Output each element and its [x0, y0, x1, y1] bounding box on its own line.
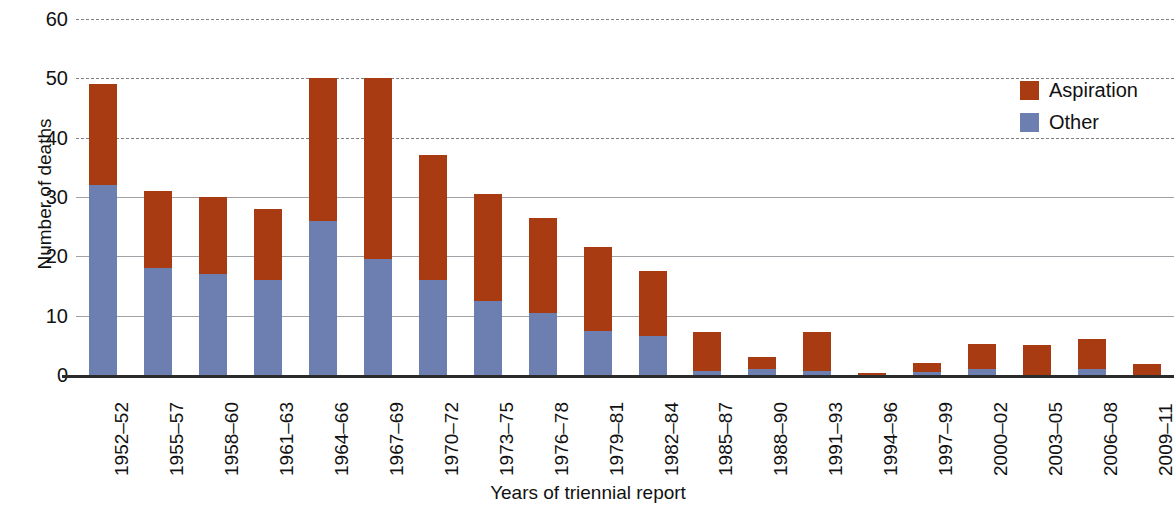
bar-stack[interactable] — [584, 247, 612, 375]
x-tick-label: 1985–87 — [716, 380, 735, 476]
x-tick-label: 1955–57 — [167, 380, 186, 476]
bar-slot[interactable] — [735, 19, 790, 375]
bar-segment-aspiration[interactable] — [254, 209, 282, 280]
bar-slot[interactable] — [460, 19, 515, 375]
y-axis-title: Number of deaths — [34, 44, 56, 344]
bar-slot[interactable] — [351, 19, 406, 375]
bar-segment-aspiration[interactable] — [364, 78, 392, 259]
bar-segment-aspiration[interactable] — [89, 84, 117, 185]
bar-slot[interactable] — [186, 19, 241, 375]
bar-stack[interactable] — [199, 197, 227, 375]
bar-stack[interactable] — [693, 332, 721, 375]
bar-slot[interactable] — [131, 19, 186, 375]
bar-stack[interactable] — [309, 78, 337, 375]
bar-segment-other[interactable] — [144, 268, 172, 375]
bar-segment-other[interactable] — [529, 313, 557, 375]
x-tick-label: 2000–02 — [991, 380, 1010, 476]
bar-slot[interactable] — [680, 19, 735, 375]
bar-segment-other[interactable] — [474, 301, 502, 375]
bar-segment-aspiration[interactable] — [419, 155, 447, 280]
bar-stack[interactable] — [1133, 364, 1161, 375]
bar-segment-aspiration[interactable] — [1023, 345, 1051, 375]
bar-segment-aspiration[interactable] — [199, 197, 227, 274]
x-tick-label: 1988–90 — [771, 380, 790, 476]
bar-segment-aspiration[interactable] — [584, 247, 612, 330]
x-axis-tick-labels: 1952–521955–571958–601961–631964–661967–… — [76, 380, 1174, 476]
bar-stack[interactable] — [419, 155, 447, 375]
bar-stack[interactable] — [89, 84, 117, 375]
bar-segment-other[interactable] — [419, 280, 447, 375]
bar-stack[interactable] — [254, 209, 282, 375]
x-tick-label: 1997–99 — [936, 380, 955, 476]
bar-segment-aspiration[interactable] — [474, 194, 502, 301]
bar-segment-aspiration[interactable] — [309, 78, 337, 220]
bar-segment-other[interactable] — [199, 274, 227, 375]
bar-slot[interactable] — [790, 19, 845, 375]
x-tick-slot: 1955–57 — [131, 380, 186, 476]
bar-slot[interactable] — [570, 19, 625, 375]
bar-slot[interactable] — [900, 19, 955, 375]
bar-segment-aspiration[interactable] — [1133, 364, 1161, 375]
bar-stack[interactable] — [364, 78, 392, 375]
bar-slot[interactable] — [296, 19, 351, 375]
bar-segment-aspiration[interactable] — [1078, 339, 1106, 369]
bar-segment-aspiration[interactable] — [529, 218, 557, 313]
x-tick-slot: 2006–08 — [1064, 380, 1119, 476]
x-tick-slot: 1982–84 — [625, 380, 680, 476]
bar-stack[interactable] — [1023, 345, 1051, 375]
bar-segment-aspiration[interactable] — [803, 332, 831, 371]
legend-label: Other — [1049, 112, 1099, 132]
bar-slot[interactable] — [1119, 19, 1174, 375]
bar-segment-other[interactable] — [309, 221, 337, 375]
bar-slot[interactable] — [405, 19, 460, 375]
bar-segment-aspiration[interactable] — [693, 332, 721, 371]
x-tick-label: 1952–52 — [112, 380, 131, 476]
x-axis-title: Years of triennial report — [0, 482, 1176, 504]
legend-item[interactable]: Aspiration — [1020, 80, 1138, 100]
bar-stack[interactable] — [1078, 339, 1106, 375]
x-tick-label: 1970–72 — [442, 380, 461, 476]
bar-stack[interactable] — [639, 271, 667, 375]
bar-slot[interactable] — [1064, 19, 1119, 375]
x-tick-label: 1991–93 — [826, 380, 845, 476]
bar-segment-other[interactable] — [639, 336, 667, 375]
bar-slot[interactable] — [76, 19, 131, 375]
bar-slot[interactable] — [241, 19, 296, 375]
x-tick-label: 1994–96 — [881, 380, 900, 476]
x-tick-slot: 1985–87 — [680, 380, 735, 476]
bar-segment-other[interactable] — [584, 331, 612, 376]
bar-segment-aspiration[interactable] — [144, 191, 172, 268]
bar-slot[interactable] — [845, 19, 900, 375]
bar-slot[interactable] — [955, 19, 1010, 375]
bar-segment-aspiration[interactable] — [748, 357, 776, 369]
bar-segment-other[interactable] — [364, 259, 392, 375]
bar-segment-aspiration[interactable] — [968, 344, 996, 369]
bar-stack[interactable] — [529, 218, 557, 375]
bar-stack[interactable] — [968, 344, 996, 375]
bar-stack[interactable] — [803, 332, 831, 375]
x-tick-label: 1976–78 — [552, 380, 571, 476]
bar-segment-other[interactable] — [254, 280, 282, 375]
x-tick-slot: 1979–81 — [570, 380, 625, 476]
x-tick-label: 1958–60 — [222, 380, 241, 476]
bar-stack[interactable] — [144, 191, 172, 375]
x-tick-slot: 1991–93 — [790, 380, 845, 476]
bar-slot[interactable] — [1009, 19, 1064, 375]
x-tick-slot: 1952–52 — [76, 380, 131, 476]
x-tick-label: 1964–66 — [332, 380, 351, 476]
bar-segment-other[interactable] — [89, 185, 117, 375]
x-tick-slot: 1976–78 — [515, 380, 570, 476]
bar-slot[interactable] — [625, 19, 680, 375]
bar-slot[interactable] — [515, 19, 570, 375]
x-tick-label: 1973–75 — [497, 380, 516, 476]
bar-stack[interactable] — [474, 194, 502, 375]
x-tick-slot: 2009–11 — [1119, 380, 1174, 476]
bar-stack[interactable] — [913, 363, 941, 375]
legend-item[interactable]: Other — [1020, 112, 1138, 132]
bar-stack[interactable] — [748, 357, 776, 375]
x-tick-label: 1979–81 — [607, 380, 626, 476]
bar-segment-aspiration[interactable] — [639, 271, 667, 336]
bar-segment-aspiration[interactable] — [913, 363, 941, 372]
legend-swatch-icon — [1020, 113, 1039, 132]
x-tick-slot: 1961–63 — [241, 380, 296, 476]
